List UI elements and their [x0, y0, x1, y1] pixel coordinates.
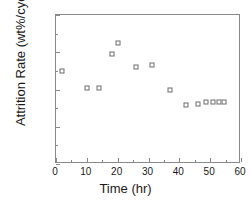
x-axis-tick-label: 20: [111, 166, 122, 177]
x-axis-minor-tick: [164, 160, 165, 162]
data-point-marker: [115, 40, 120, 45]
data-point-marker: [195, 102, 200, 107]
data-point-marker: [183, 103, 188, 108]
x-axis-tick: [179, 158, 180, 162]
x-axis-minor-tick: [226, 160, 227, 162]
y-axis-tick: [56, 127, 60, 128]
x-axis-minor-tick: [71, 160, 72, 162]
data-point-marker: [134, 65, 139, 70]
y-axis-minor-tick: [56, 71, 58, 72]
data-point-marker: [97, 85, 102, 90]
y-axis-tick: [56, 15, 60, 16]
data-point-marker: [84, 85, 89, 90]
x-axis-minor-tick: [102, 160, 103, 162]
data-point-marker: [222, 99, 227, 104]
x-axis-tick-label: 50: [204, 166, 215, 177]
x-axis-tick: [118, 158, 119, 162]
y-axis-tick: [56, 52, 60, 53]
y-axis-title: Attrition Rate (wt%/cycle): [13, 0, 28, 134]
x-axis-tick-label: 0: [52, 166, 58, 177]
y-axis-tick: [56, 90, 60, 91]
plot-area: [55, 14, 240, 163]
x-axis-minor-tick: [133, 160, 134, 162]
data-point-marker: [203, 99, 208, 104]
x-axis-tick-label: 10: [80, 166, 91, 177]
data-point-marker: [149, 63, 154, 68]
data-point-marker: [60, 68, 65, 73]
x-axis-tick-label: 40: [173, 166, 184, 177]
y-axis-tick: [56, 164, 60, 165]
x-axis-tick: [210, 158, 211, 162]
x-axis-tick: [241, 158, 242, 162]
x-axis-tick: [87, 158, 88, 162]
x-axis-tick: [149, 158, 150, 162]
data-point-marker: [109, 52, 114, 57]
y-axis-minor-tick: [56, 145, 58, 146]
y-axis-minor-tick: [56, 108, 58, 109]
data-point-marker: [168, 87, 173, 92]
x-axis-title: Time (hr): [0, 181, 251, 196]
x-axis-tick: [56, 158, 57, 162]
x-axis-tick-label: 60: [234, 166, 245, 177]
x-axis-minor-tick: [195, 160, 196, 162]
y-axis-minor-tick: [56, 34, 58, 35]
data-point-marker: [211, 99, 216, 104]
x-axis-tick-label: 30: [142, 166, 153, 177]
attrition-rate-scatter-chart: Attrition Rate (wt%/cycle) Time (hr) 0.0…: [0, 0, 251, 204]
